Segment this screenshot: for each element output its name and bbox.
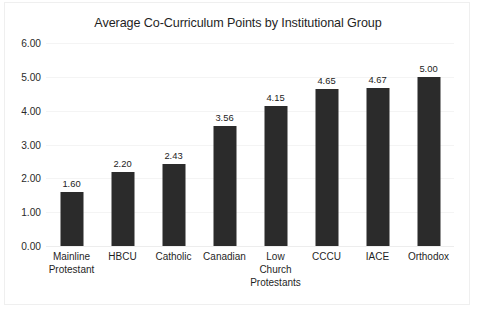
x-axis-tick-label-line: CCCU	[301, 250, 352, 263]
x-axis-tick-label: Orthodox	[403, 250, 454, 263]
bar-slot: 4.67	[352, 43, 403, 246]
y-axis-tick-label: 2.00	[5, 173, 41, 184]
y-axis-tick-label: 5.00	[5, 71, 41, 82]
bar[interactable]	[213, 126, 236, 246]
x-axis-tick-label-line: Protestant	[46, 263, 97, 276]
bar[interactable]	[417, 77, 440, 246]
x-axis: MainlineProtestantHBCUCatholicCanadianLo…	[46, 250, 454, 290]
bar[interactable]	[60, 192, 83, 246]
bar-series: 1.602.202.433.564.154.654.675.00	[46, 43, 454, 246]
chart-title: Average Co-Curriculum Points by Institut…	[5, 16, 471, 30]
x-axis-tick-label: IACE	[352, 250, 403, 263]
x-axis-tick-label-line: Mainline	[46, 250, 97, 263]
bar-slot: 4.15	[250, 43, 301, 246]
bar[interactable]	[111, 172, 134, 246]
x-axis-tick-label-line: Low Church	[250, 250, 301, 276]
bar[interactable]	[162, 164, 185, 246]
bar[interactable]	[366, 88, 389, 246]
y-axis-tick-label: 4.00	[5, 105, 41, 116]
bar-value-label: 4.15	[266, 92, 284, 103]
bar[interactable]	[315, 89, 338, 246]
x-axis-tick-label: Low ChurchProtestants	[250, 250, 301, 289]
bar-slot: 3.56	[199, 43, 250, 246]
y-axis-tick-label: 1.00	[5, 207, 41, 218]
x-axis-tick-label-line: Canadian	[199, 250, 250, 263]
x-axis-tick-label-line: Orthodox	[403, 250, 454, 263]
x-axis-tick-label: MainlineProtestant	[46, 250, 97, 276]
x-axis-tick-label-line: IACE	[352, 250, 403, 263]
chart-frame: Average Co-Curriculum Points by Institut…	[4, 2, 470, 305]
bar-value-label: 4.65	[317, 75, 335, 86]
bar-value-label: 4.67	[368, 74, 386, 85]
y-axis-tick-label: 3.00	[5, 139, 41, 150]
bar-value-label: 3.56	[215, 112, 233, 123]
y-axis-tick-label: 6.00	[5, 38, 41, 49]
x-axis-tick-label-line: HBCU	[97, 250, 148, 263]
bar-slot: 1.60	[46, 43, 97, 246]
y-axis: 0.001.002.003.004.005.006.00	[5, 43, 41, 246]
bar-slot: 5.00	[403, 43, 454, 246]
bar-slot: 2.20	[97, 43, 148, 246]
x-axis-tick-label: HBCU	[97, 250, 148, 263]
bar-value-label: 5.00	[419, 63, 437, 74]
gridline	[46, 246, 454, 247]
bar-value-label: 2.43	[164, 150, 182, 161]
bar[interactable]	[264, 106, 287, 246]
bar-slot: 2.43	[148, 43, 199, 246]
x-axis-tick-label-line: Catholic	[148, 250, 199, 263]
bar-value-label: 2.20	[113, 158, 131, 169]
x-axis-tick-label-line: Protestants	[250, 276, 301, 289]
x-axis-tick-label: Catholic	[148, 250, 199, 263]
x-axis-tick-label: CCCU	[301, 250, 352, 263]
bar-value-label: 1.60	[62, 178, 80, 189]
y-axis-tick-label: 0.00	[5, 241, 41, 252]
x-axis-tick-label: Canadian	[199, 250, 250, 263]
bar-slot: 4.65	[301, 43, 352, 246]
